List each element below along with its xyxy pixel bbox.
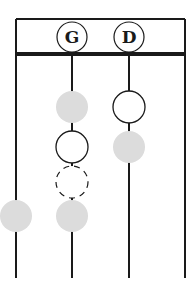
string-label-d: D xyxy=(122,27,137,47)
finger-marker-dashed xyxy=(56,166,88,198)
finger-marker-filled xyxy=(56,200,88,232)
diagram-frame xyxy=(15,19,186,54)
header-labels: GD xyxy=(57,22,144,52)
finger-marker-filled xyxy=(113,131,145,163)
string-label-g: G xyxy=(65,27,80,47)
finger-marker-open xyxy=(113,91,145,123)
finger-marker-filled xyxy=(56,91,88,123)
finger-marker-open xyxy=(56,131,88,163)
strings xyxy=(16,19,185,278)
fingering-diagram: GD xyxy=(0,0,195,292)
markers xyxy=(0,91,145,232)
finger-marker-filled xyxy=(0,200,32,232)
